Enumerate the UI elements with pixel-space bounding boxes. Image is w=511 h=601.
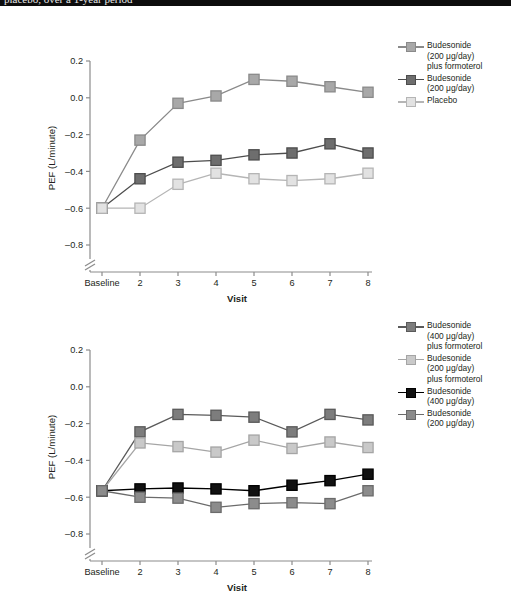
x-tick-label: 4 <box>213 567 218 577</box>
x-tick-label: 6 <box>289 278 294 288</box>
data-point-marker <box>211 155 221 165</box>
data-point-marker <box>325 409 335 419</box>
data-point-marker <box>325 476 335 486</box>
y-tick-label: 0.0 <box>70 93 83 103</box>
panel-a-legend-item: Budesonide(200 μg/day) <box>398 73 482 94</box>
data-point-marker <box>211 168 221 178</box>
panel-a-legend-item: Budesonide(200 μg/day)plus formoterol <box>398 40 482 72</box>
x-tick-label: 7 <box>327 567 332 577</box>
data-point-marker <box>249 435 259 445</box>
x-tick-label: Baseline <box>84 567 119 577</box>
panel-b-legend-item: Budesonide(400 μg/day)plus formoterol <box>398 320 482 352</box>
data-point-marker <box>363 87 373 97</box>
y-tick-label: –0.8 <box>65 240 83 250</box>
panel-b-legend: Budesonide(400 μg/day)plus formoterolBud… <box>398 320 482 430</box>
data-point-marker <box>287 427 297 437</box>
x-tick-label: 7 <box>327 278 332 288</box>
legend-label-line: Budesonide <box>427 73 474 84</box>
data-point-marker <box>287 76 297 86</box>
data-point-marker <box>135 492 145 502</box>
y-axis-title: PEF (L/minute) <box>46 415 57 480</box>
legend-item-label: Budesonide(200 μg/day) <box>424 408 474 429</box>
y-tick-label: –0.2 <box>65 419 83 429</box>
legend-key-icon <box>398 354 424 366</box>
data-point-marker <box>173 409 183 419</box>
panel-a-plot: 0.20.0–0.2–0.4–0.6–0.8PEF (L/minute)Base… <box>0 14 390 304</box>
panel-b-legend-item: Budesonide(200 μg/day)plus formoterol <box>398 353 482 385</box>
legend-label-line: plus formoterol <box>427 61 482 72</box>
x-tick-label: 3 <box>175 567 180 577</box>
x-tick-label: 2 <box>137 278 142 288</box>
y-tick-label: 0.2 <box>70 345 83 355</box>
y-axis-title: PEF (L/minute) <box>46 126 57 191</box>
data-point-marker <box>363 486 373 496</box>
data-point-marker <box>211 484 221 494</box>
data-point-marker <box>173 483 183 493</box>
y-tick-label: –0.2 <box>65 130 83 140</box>
data-point-marker <box>363 469 373 479</box>
x-tick-label: 8 <box>365 567 370 577</box>
y-tick-label: –0.4 <box>65 456 83 466</box>
data-point-marker <box>249 486 259 496</box>
x-tick-label: 6 <box>289 567 294 577</box>
data-point-marker <box>135 438 145 448</box>
legend-label-line: (200 μg/day) <box>427 83 474 94</box>
panel-b-legend-item: Budesonide(400 μg/day) <box>398 386 482 407</box>
legend-label-line: Budesonide <box>427 408 474 419</box>
data-point-marker <box>249 174 259 184</box>
panel-b-plot: 0.20.0–0.2–0.4–0.6–0.8PEF (L/minute)Base… <box>0 303 390 593</box>
data-point-marker <box>135 135 145 145</box>
data-point-marker <box>363 415 373 425</box>
data-point-marker <box>363 168 373 178</box>
x-axis-title: Visit <box>227 582 248 593</box>
data-point-marker <box>287 443 297 453</box>
x-tick-label: 5 <box>251 567 256 577</box>
legend-key-icon <box>398 409 424 421</box>
legend-label-line: (200 μg/day) <box>427 51 482 62</box>
panel-a-legend: Budesonide(200 μg/day)plus formoterolBud… <box>398 40 482 109</box>
x-tick-label: Baseline <box>84 278 119 288</box>
x-tick-label: 8 <box>365 278 370 288</box>
legend-label-line: Budesonide <box>427 386 474 397</box>
panel-b-legend-item: Budesonide(200 μg/day) <box>398 408 482 429</box>
data-point-marker <box>97 203 107 213</box>
y-tick-label: 0.2 <box>70 56 83 66</box>
data-point-marker <box>287 498 297 508</box>
x-tick-label: 3 <box>175 278 180 288</box>
data-point-marker <box>325 174 335 184</box>
chart-panel-a: 0.20.0–0.2–0.4–0.6–0.8PEF (L/minute)Base… <box>0 14 511 304</box>
data-point-marker <box>249 74 259 84</box>
legend-label-line: (200 μg/day) <box>427 363 482 374</box>
data-point-marker <box>325 139 335 149</box>
legend-label-line: (200 μg/day) <box>427 418 474 429</box>
legend-label-line: (400 μg/day) <box>427 396 474 407</box>
legend-item-label: Placebo <box>424 95 457 106</box>
legend-item-label: Budesonide(400 μg/day) <box>424 386 474 407</box>
legend-key-icon <box>398 387 424 399</box>
data-point-marker <box>325 437 335 447</box>
data-point-marker <box>287 480 297 490</box>
legend-key-icon <box>398 321 424 333</box>
data-point-marker <box>249 412 259 422</box>
data-point-marker <box>325 499 335 509</box>
data-point-marker <box>249 150 259 160</box>
data-point-marker <box>135 174 145 184</box>
data-point-marker <box>135 427 145 437</box>
x-tick-label: 5 <box>251 278 256 288</box>
legend-label-line: plus formoterol <box>427 374 482 385</box>
cut-off-text: placebo, over a 1-year period <box>4 0 133 5</box>
panel-a-legend-item: Placebo <box>398 95 482 108</box>
legend-label-line: Budesonide <box>427 353 482 364</box>
data-point-marker <box>97 486 107 496</box>
y-tick-label: –0.6 <box>65 493 83 503</box>
legend-key-icon <box>398 96 424 108</box>
data-point-marker <box>211 447 221 457</box>
data-point-marker <box>211 410 221 420</box>
legend-item-label: Budesonide(200 μg/day)plus formoterol <box>424 353 482 385</box>
x-tick-label: 4 <box>213 278 218 288</box>
y-tick-label: –0.6 <box>65 204 83 214</box>
legend-key-icon <box>398 74 424 86</box>
legend-item-label: Budesonide(200 μg/day)plus formoterol <box>424 40 482 72</box>
data-point-marker <box>363 148 373 158</box>
legend-label-line: Budesonide <box>427 40 482 51</box>
